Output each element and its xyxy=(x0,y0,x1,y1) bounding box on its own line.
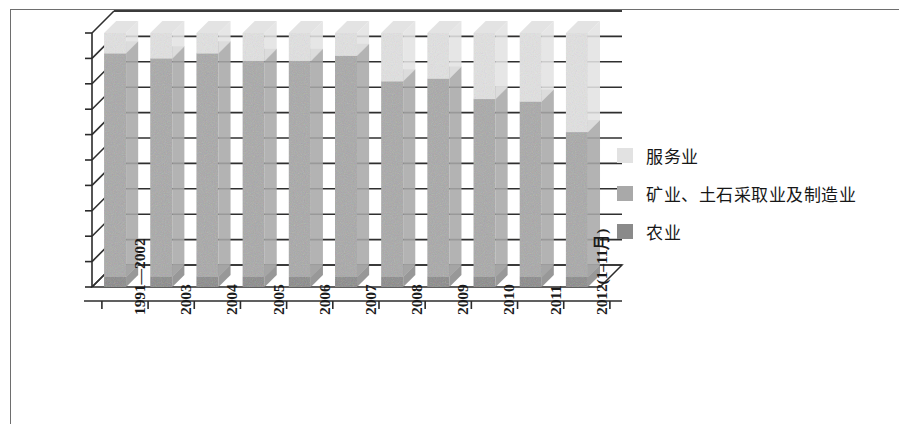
x-axis-tick-label: 1991—2002 xyxy=(132,238,148,315)
x-axis-tick-label: 2008 xyxy=(409,284,425,315)
x-axis-tick-label: 2004 xyxy=(224,284,240,315)
x-axis-tick-label: 2006 xyxy=(317,284,333,315)
x-axis-tick-label: 2010 xyxy=(501,284,517,315)
x-axis-tick-label: 2009 xyxy=(455,284,471,315)
legend-swatch-icon xyxy=(617,186,633,201)
legend-swatch-icon xyxy=(617,224,633,239)
x-axis-tick-label: 2011 xyxy=(548,285,564,315)
legend-swatch-icon xyxy=(617,148,633,163)
x-axis-tick-label: 2003 xyxy=(178,284,194,315)
legend-item-label: 服务业 xyxy=(646,143,699,168)
x-axis-tick-label: 2007 xyxy=(363,284,379,315)
legend-item-label: 矿业、土石采取业及制造业 xyxy=(646,181,856,206)
x-axis-tick-label: 2012(1–11月) xyxy=(594,229,610,315)
x-axis-tick-label: 2005 xyxy=(271,284,287,315)
legend-item[interactable]: 农业 xyxy=(617,212,897,250)
legend-item-label: 农业 xyxy=(646,219,681,244)
legend-item[interactable]: 服务业 xyxy=(617,136,897,174)
legend-item[interactable]: 矿业、土石采取业及制造业 xyxy=(617,174,897,212)
chart-legend: 服务业矿业、土石采取业及制造业农业 xyxy=(617,136,897,250)
